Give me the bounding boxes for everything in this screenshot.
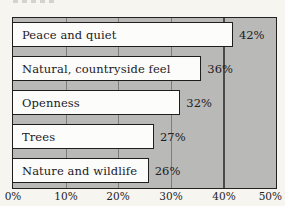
bar-openness: Openness 32%: [12, 90, 180, 115]
bar-natural-countryside-feel: Natural, countryside feel 36%: [12, 56, 201, 81]
bar-chart: Peace and quiet 42% Natural, countryside…: [0, 0, 285, 206]
bar-peace-and-quiet: Peace and quiet 42%: [12, 22, 233, 47]
x-tick: 30%: [159, 190, 182, 202]
bar-nature-and-wildlife: Nature and wildlife 26%: [12, 158, 149, 183]
bar-value: 26%: [155, 164, 181, 178]
x-tick: 20%: [106, 190, 129, 202]
bar-label: Natural, countryside feel: [13, 62, 171, 76]
x-tick: 0%: [5, 190, 22, 202]
bar-value: 42%: [239, 28, 265, 42]
plot-area: Peace and quiet 42% Natural, countryside…: [12, 17, 277, 189]
bar-value: 27%: [160, 130, 186, 144]
x-axis: 0% 10% 20% 30% 40% 50%: [0, 190, 285, 206]
bar-value: 36%: [207, 62, 233, 76]
x-tick: 10%: [54, 190, 77, 202]
x-tick: 50%: [259, 190, 282, 202]
bar-label: Openness: [13, 96, 80, 110]
bar-label: Nature and wildlife: [13, 164, 137, 178]
bar-value: 32%: [186, 96, 212, 110]
bar-trees: Trees 27%: [12, 124, 154, 149]
bar-label: Trees: [13, 130, 55, 144]
bar-label: Peace and quiet: [13, 28, 116, 42]
cropped-text-artifact: [13, 0, 55, 3]
x-tick: 40%: [212, 190, 235, 202]
